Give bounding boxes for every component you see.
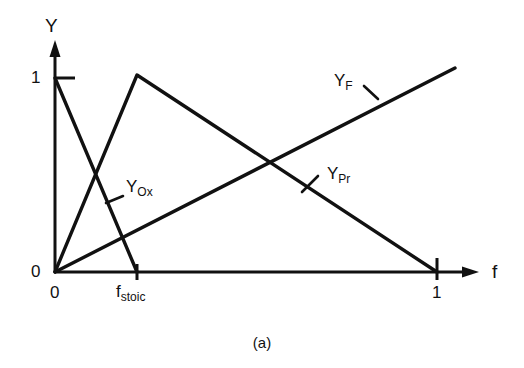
y-axis bbox=[50, 40, 61, 272]
y-ox-base: Y bbox=[126, 177, 137, 196]
y-pr-subscript: Pr bbox=[338, 172, 350, 186]
x-axis-label: f bbox=[492, 262, 497, 281]
x-tick-label-one: 1 bbox=[432, 284, 441, 301]
curve-label-y-f: YF bbox=[334, 72, 353, 92]
curve-label-y-pr: YPr bbox=[327, 165, 350, 185]
figure-caption: (a) bbox=[0, 334, 524, 351]
y-tick-label-zero: 0 bbox=[31, 263, 40, 280]
leader-line-y-ox bbox=[106, 196, 123, 203]
y-pr-base: Y bbox=[327, 164, 338, 183]
figure-canvas: Y f 1 0 0 fstoic 1 YOx YF YPr (a) bbox=[0, 0, 524, 368]
y-f-base: Y bbox=[334, 71, 345, 90]
curve-y-f bbox=[55, 68, 455, 272]
x-tick-label-fstoic: fstoic bbox=[116, 283, 145, 303]
diagram-svg bbox=[0, 0, 524, 368]
y-tick-label-one: 1 bbox=[31, 69, 40, 86]
y-f-subscript: F bbox=[345, 79, 352, 93]
fstoic-subscript: stoic bbox=[121, 290, 146, 304]
y-axis-label: Y bbox=[45, 16, 58, 35]
y-ox-subscript: Ox bbox=[137, 185, 152, 199]
curve-label-y-ox: YOx bbox=[126, 178, 153, 198]
leader-line-y-f bbox=[364, 86, 378, 99]
x-axis bbox=[55, 267, 479, 278]
x-tick-label-zero: 0 bbox=[50, 284, 59, 301]
